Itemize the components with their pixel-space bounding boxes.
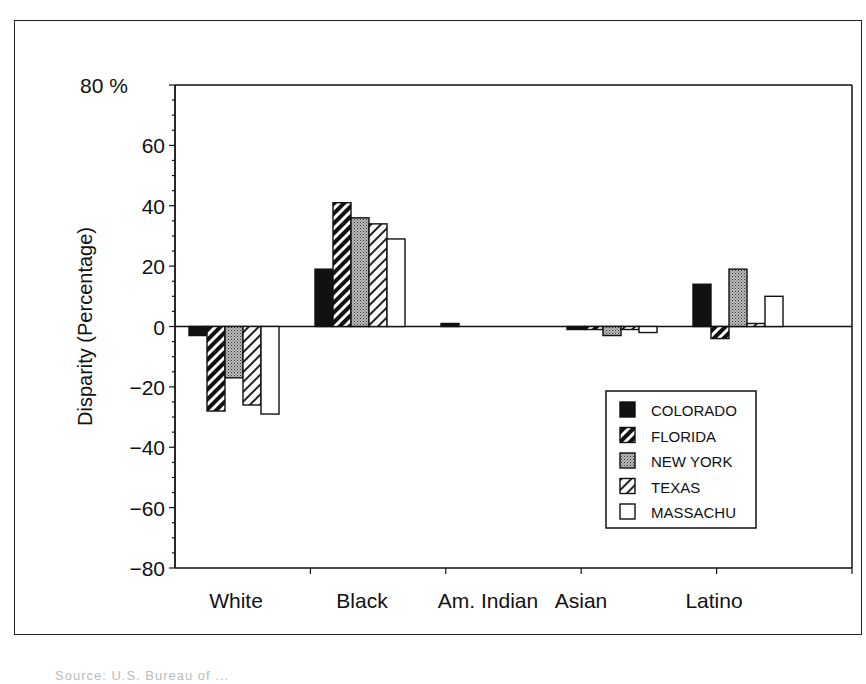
y-tick-label: 80 % [80,74,128,97]
legend-label: COLORADO [651,402,737,419]
bar-florida-white [207,327,225,412]
bar-massachu-black [387,239,405,327]
bar-texas-white [243,327,261,405]
y-tick-label: 40 [142,195,165,218]
bar-new-york-white [225,327,243,378]
bar-florida-black [333,203,351,327]
bar-florida-asian [585,327,603,330]
y-tick-label: 60 [142,134,165,157]
legend-swatch-icon [620,402,635,417]
bar-colorado-white [189,327,207,336]
legend-label: MASSACHU [651,504,736,521]
legend-swatch-icon [620,504,635,519]
legend-label: NEW YORK [651,453,732,470]
x-category-label: Latino [685,589,742,612]
legend-label: FLORIDA [651,428,716,445]
y-axis-label: Disparity (Percentage) [74,227,96,426]
bar-colorado-am-indian [441,323,459,326]
x-category-label: White [209,589,263,612]
bar-colorado-latino [693,284,711,326]
bar-massachu-white [261,327,279,415]
bar-new-york-asian [603,327,621,336]
y-tick-label: 20 [142,255,165,278]
legend-swatch-icon [620,479,635,494]
axes: 80 %6040200−20−40−60−80Disparity (Percen… [74,74,852,612]
bar-colorado-black [315,269,333,326]
x-category-label: Am. Indian [438,589,538,612]
bar-texas-latino [747,323,765,326]
bar-chart: 80 %6040200−20−40−60−80Disparity (Percen… [0,0,866,684]
bar-massachu-asian [639,327,657,333]
y-tick-label: −20 [129,376,165,399]
x-category-label: Asian [555,589,608,612]
legend-label: TEXAS [651,479,700,496]
y-tick-label: −60 [129,497,165,520]
bar-texas-asian [621,327,639,330]
bar-florida-latino [711,327,729,339]
bar-new-york-black [351,218,369,327]
bar-new-york-latino [729,269,747,326]
legend-swatch-icon [620,453,635,468]
bar-colorado-asian [567,327,585,330]
y-tick-label: −40 [129,436,165,459]
bars-group [189,203,783,414]
legend-swatch-icon [620,428,635,443]
y-tick-label: 0 [153,316,165,339]
x-category-label: Black [336,589,388,612]
source-note: Source: U.S. Bureau of ... [55,668,229,683]
y-tick-label: −80 [129,557,165,580]
legend: COLORADOFLORIDANEW YORKTEXASMASSACHU [606,391,756,528]
bar-texas-black [369,224,387,327]
bar-massachu-latino [765,296,783,326]
